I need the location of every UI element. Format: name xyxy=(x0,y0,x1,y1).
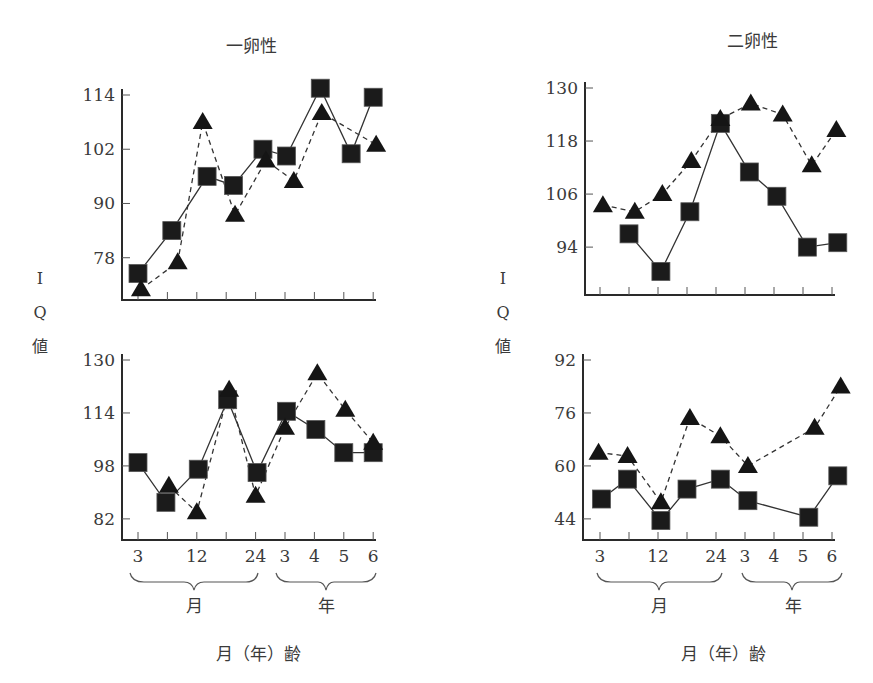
x-tick-label: 4 xyxy=(769,546,780,566)
triangle-marker xyxy=(802,155,822,172)
ylabel-char: I xyxy=(500,269,506,288)
axes xyxy=(585,82,835,295)
ylabel-char: 値 xyxy=(32,337,48,356)
x-axis-label-left: 月（年）齢 xyxy=(216,644,301,664)
triangle-marker xyxy=(831,376,851,393)
chart-title-dizygotic: 二卵性 xyxy=(727,31,778,51)
triangle-marker xyxy=(219,380,239,397)
triangle-marker xyxy=(589,443,609,460)
triangle-marker xyxy=(593,195,613,212)
x-tick-label: 6 xyxy=(827,546,838,566)
brace-months-left xyxy=(130,573,258,590)
x-tick-label: 5 xyxy=(338,546,349,566)
y-tick-label: 94 xyxy=(556,237,578,257)
ylabel-char: 値 xyxy=(495,337,511,356)
series-line-squares xyxy=(138,88,373,273)
y-tick-label: 114 xyxy=(83,403,115,423)
square-marker xyxy=(800,508,818,526)
group-label-years-left: 年 xyxy=(318,596,335,616)
x-tick-label: 3 xyxy=(133,546,144,566)
square-marker xyxy=(307,421,325,439)
square-marker xyxy=(829,467,847,485)
ylabel-char: Q xyxy=(33,303,46,322)
y-tick-label: 130 xyxy=(546,78,578,98)
triangle-marker xyxy=(335,400,355,417)
brace-years-left xyxy=(276,573,376,590)
x-tick-label: 5 xyxy=(798,546,809,566)
square-marker xyxy=(129,454,147,472)
y-tick-label: 98 xyxy=(93,456,115,476)
plot-dizygotic-top: 94106118130 xyxy=(546,78,847,295)
y-axis-label-right: I Q 値 xyxy=(495,269,511,356)
y-tick-label: 106 xyxy=(546,184,578,204)
iq-twin-figure: 一卵性 二卵性 I Q 値 I Q 値 7890102114 941061181… xyxy=(0,0,873,683)
square-marker xyxy=(681,203,699,221)
triangle-marker xyxy=(710,426,730,443)
group-label-months-right: 月 xyxy=(651,596,668,616)
square-marker xyxy=(798,238,816,256)
ylabel-char: Q xyxy=(496,303,509,322)
x-tick-label: 24 xyxy=(245,546,267,566)
square-marker xyxy=(620,225,638,243)
triangle-marker xyxy=(738,456,758,473)
triangle-marker xyxy=(625,202,645,219)
y-tick-label: 130 xyxy=(83,350,115,370)
triangle-marker xyxy=(680,408,700,425)
triangle-marker xyxy=(159,476,179,493)
y-tick-label: 90 xyxy=(93,193,115,213)
triangle-marker xyxy=(826,120,846,137)
square-marker xyxy=(157,493,175,511)
plot-monozygotic-top: 7890102114 xyxy=(83,79,387,300)
y-tick-label: 76 xyxy=(554,403,576,423)
square-marker xyxy=(277,147,295,165)
square-marker xyxy=(342,145,360,163)
brace-years-right xyxy=(742,573,842,590)
y-tick-label: 92 xyxy=(554,350,576,370)
square-marker xyxy=(335,444,353,462)
square-marker xyxy=(225,176,243,194)
x-tick-label: 12 xyxy=(647,546,669,566)
square-marker xyxy=(740,163,758,181)
axes xyxy=(122,89,376,300)
y-tick-label: 82 xyxy=(93,509,115,529)
triangle-marker xyxy=(225,205,245,222)
x-tick-label: 4 xyxy=(309,546,320,566)
x-axis-label-right: 月（年）齢 xyxy=(681,644,766,664)
x-tick-label: 3 xyxy=(595,546,606,566)
triangle-marker xyxy=(805,418,825,435)
square-marker xyxy=(163,222,181,240)
y-tick-label: 60 xyxy=(554,456,576,476)
y-tick-label: 78 xyxy=(93,248,115,268)
plot-monozygotic-bottom: 8298114130312243456 xyxy=(83,350,384,566)
y-axis-label-left: I Q 値 xyxy=(32,269,48,356)
square-marker xyxy=(277,402,295,420)
x-tick-label: 3 xyxy=(280,546,291,566)
ylabel-char: I xyxy=(37,269,43,288)
square-marker xyxy=(652,262,670,280)
triangle-marker xyxy=(246,486,266,503)
square-marker xyxy=(619,470,637,488)
x-tick-label: 3 xyxy=(740,546,751,566)
triangle-marker xyxy=(618,446,638,463)
y-tick-label: 114 xyxy=(83,85,115,105)
square-marker xyxy=(311,79,329,97)
triangle-marker xyxy=(168,252,188,269)
x-tick-label: 12 xyxy=(186,546,208,566)
square-marker xyxy=(739,492,757,510)
triangle-marker xyxy=(284,171,304,188)
chart-title-monozygotic: 一卵性 xyxy=(226,36,277,56)
brace-months-right xyxy=(597,573,722,590)
square-marker xyxy=(592,490,610,508)
y-tick-label: 102 xyxy=(83,139,115,159)
square-marker xyxy=(129,265,147,283)
square-marker xyxy=(198,167,216,185)
triangle-marker xyxy=(366,135,386,152)
group-label-years-right: 年 xyxy=(785,596,802,616)
x-tick-label: 6 xyxy=(368,546,379,566)
triangle-marker xyxy=(681,151,701,168)
triangle-marker xyxy=(193,112,213,129)
square-marker xyxy=(829,234,847,252)
triangle-marker xyxy=(651,492,671,509)
x-tick-label: 24 xyxy=(705,546,727,566)
y-tick-label: 44 xyxy=(554,509,576,529)
